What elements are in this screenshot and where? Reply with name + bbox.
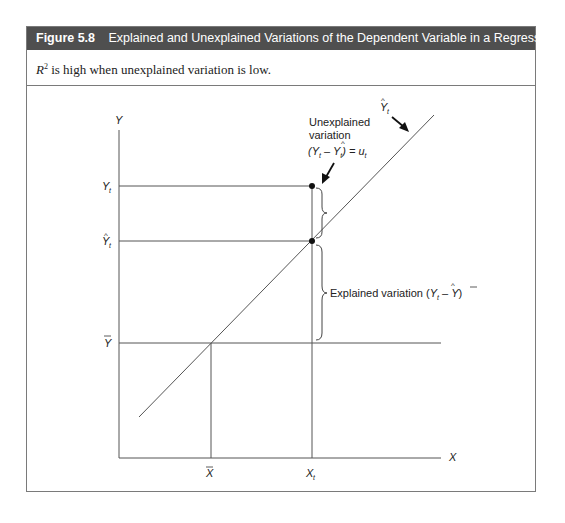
explained-brace [316,245,327,340]
regression-line [139,115,434,417]
y-axis-label: Y [115,114,123,126]
unexplained-brace [316,188,327,238]
observed-point [309,183,315,189]
x-axis-label: X [448,451,457,463]
svg-text:t: t [109,187,112,194]
unexplained-arrow [326,163,334,177]
predicted-point [309,238,315,244]
svg-text:Y: Y [104,337,112,349]
xbar-tick-label: X [205,467,214,479]
regression-line-label: ^ Y t [380,96,390,115]
explained-label: Explained variation (Yt – Y) ^ [330,281,477,301]
ybar-tick-label: Y [104,336,112,349]
svg-text:Explained variation (Yt – Y): Explained variation (Yt – Y) [330,287,462,301]
svg-text:Unexplained: Unexplained [309,116,370,128]
svg-text:X: X [205,467,214,479]
svg-text:^: ^ [451,281,455,290]
xt-tick-label: X t [305,467,316,481]
svg-text:^: ^ [341,139,345,148]
yt-tick-label: Y t [102,180,112,194]
svg-text:t: t [313,474,316,481]
svg-text:t: t [387,108,390,115]
arrowhead-icon [322,173,330,184]
regression-diagram: Y X Y t ^ Y t Y X X t ^ Y t Unexpla [0,0,565,523]
unexplained-label: Unexplained variation (Yt – Yt) = ut ^ [308,116,370,159]
svg-text:(Yt – Yt) = ut: (Yt – Yt) = ut [308,145,368,159]
svg-text:t: t [109,242,112,249]
yhat-tick-label: ^ Y t [102,231,112,249]
